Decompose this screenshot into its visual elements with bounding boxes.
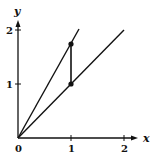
y-axis-arrow-icon [16,20,21,27]
y-tick-label-2: 2 [6,25,13,36]
x-tick-label-1: 1 [68,143,75,154]
y-axis-label: y [13,5,22,18]
x-axis-label: x [142,132,150,145]
x-axis-arrow-icon [131,136,138,141]
x-tick-label-2: 2 [121,143,128,154]
diagram-canvas: x y 0 1 2 1 2 [0,0,154,157]
point-1-sqrt3 [68,41,73,46]
x-tick-label-0: 0 [15,143,22,154]
y-tick-label-1: 1 [6,79,13,90]
point-1-1 [68,81,73,86]
